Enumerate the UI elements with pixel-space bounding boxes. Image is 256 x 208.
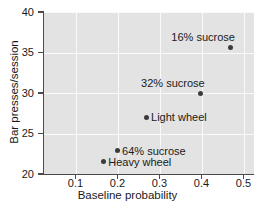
data-point xyxy=(144,115,149,120)
x-axis-title: Baseline probability xyxy=(0,189,255,201)
x-axis-ticklabel: 0.1 xyxy=(59,178,93,189)
y-axis-tick xyxy=(38,11,44,12)
x-axis-ticklabel: 0.4 xyxy=(185,178,219,189)
data-point-label: 16% sucrose xyxy=(171,31,235,43)
x-axis-ticklabel: 0.5 xyxy=(227,178,256,189)
data-point-label: 32% sucrose xyxy=(141,77,205,89)
x-axis-ticklabel: 0.3 xyxy=(143,178,177,189)
data-point xyxy=(115,148,120,153)
data-point-label: Heavy wheel xyxy=(108,156,171,168)
gridline-vertical xyxy=(76,12,77,174)
data-point-label: 64% sucrose xyxy=(122,145,186,157)
y-axis-tick xyxy=(38,52,44,53)
x-axis-ticklabel: 0.2 xyxy=(101,178,135,189)
y-axis-tick xyxy=(38,133,44,134)
gridline-vertical xyxy=(244,12,245,174)
y-axis-ticklabel: 20 xyxy=(8,169,34,180)
y-axis-tick xyxy=(38,173,44,174)
data-point-label: Light wheel xyxy=(151,111,207,123)
y-axis-tick xyxy=(38,92,44,93)
y-axis-title: Bar presses/session xyxy=(8,17,20,167)
scatter-plot-figure: 2025303540 0.10.20.30.40.5 16% sucrose32… xyxy=(0,0,255,208)
y-axis-ticklabel: 40 xyxy=(8,7,34,18)
